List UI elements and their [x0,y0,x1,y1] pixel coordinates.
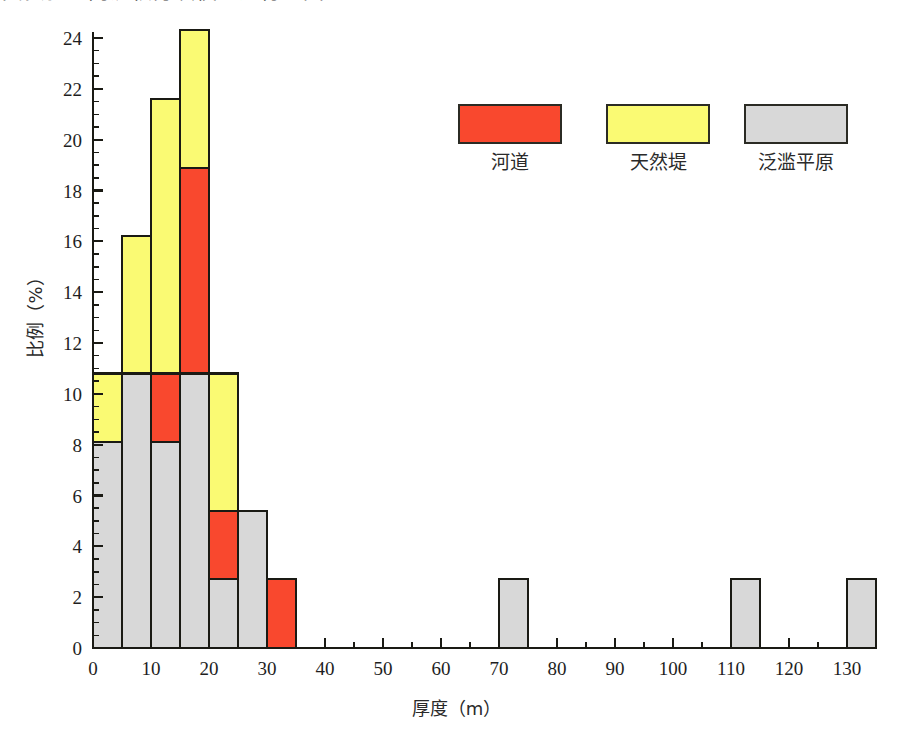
y-tick-label: 24 [63,28,83,49]
x-tick-label: 120 [775,658,804,679]
y-tick-label: 16 [63,231,82,252]
x-tick-label: 20 [200,658,219,679]
x-tick-label: 10 [142,658,161,679]
y-tick-label: 12 [63,333,82,354]
legend-swatch-floodplain [744,104,848,144]
bar-segment-floodplain [731,579,760,648]
y-tick-label: 8 [73,435,83,456]
legend-label-floodplain: 泛滥平原 [738,151,854,173]
legend-label-levee: 天然堤 [600,151,716,173]
y-tick-label: 22 [63,79,82,100]
y-tick-label: 0 [73,638,83,659]
y-tick-label: 20 [63,130,82,151]
legend-entry-levee: 天然堤 [600,104,716,173]
legend-entry-channel: 河道 [452,104,568,173]
x-tick-label: 80 [548,658,567,679]
bar-segment-channel [151,374,180,443]
bar-segment-floodplain [238,511,267,648]
bar-segment-levee [151,99,180,374]
y-tick-label: 6 [73,486,83,507]
x-tick-label: 50 [374,658,393,679]
y-tick-label: 2 [73,587,83,608]
bar-segment-levee [122,236,151,373]
bar-segment-levee [209,374,238,511]
x-tick-label: 100 [659,658,688,679]
y-tick-label: 18 [63,181,82,202]
x-tick-label: 60 [432,658,451,679]
x-tick-label: 40 [316,658,335,679]
bar-segment-floodplain [180,374,209,649]
legend-label-channel: 河道 [452,151,568,173]
legend-swatch-levee [606,104,710,144]
y-tick-label: 14 [63,282,83,303]
y-tick-label: 10 [63,384,82,405]
bar-segment-levee [180,30,209,167]
y-tick-label: 4 [73,536,83,557]
bar-segment-floodplain [847,579,876,648]
legend-swatch-channel [458,104,562,144]
x-tick-label: 30 [258,658,277,679]
bar-segment-channel [267,579,296,648]
histogram-figure: 0246810121416182022240102030405060708090… [0,0,913,736]
bar-segment-channel [180,168,209,374]
x-tick-label: 90 [606,658,625,679]
x-tick-label: 0 [88,658,98,679]
x-axis-title: 厚度（m） [0,694,913,720]
y-axis-title: 比例（%） [21,233,47,393]
x-tick-label: 70 [490,658,509,679]
bar-segment-floodplain [93,442,122,648]
bar-segment-floodplain [151,442,180,648]
bar-segment-floodplain [209,579,238,648]
x-tick-label: 110 [717,658,745,679]
x-tick-label: 130 [833,658,862,679]
bar-segment-floodplain [499,579,528,648]
chart-legend: 河道 天然堤 泛滥平原 [452,104,872,190]
bar-segment-channel [209,511,238,580]
legend-entry-floodplain: 泛滥平原 [738,104,854,173]
bar-segment-floodplain [122,374,151,649]
